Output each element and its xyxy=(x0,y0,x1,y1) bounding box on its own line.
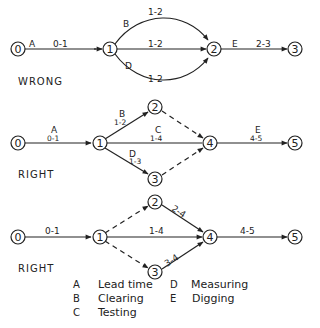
caption-right: RIGHT xyxy=(18,169,54,180)
svg-text:1: 1 xyxy=(97,137,104,150)
edge-label: 0-1 xyxy=(47,134,59,143)
svg-text:0: 0 xyxy=(15,137,22,150)
diagram-wrong: A 0-1 B 1-2 1-2 D 1-2 E 2-3 0 1 2 3 WRON… xyxy=(11,7,302,87)
legend-key: B xyxy=(73,293,80,304)
dummy-1-3 xyxy=(105,241,148,268)
edge-label: 1-2 xyxy=(114,118,126,127)
edge-label: 2-4 xyxy=(170,203,188,220)
node-1: 1 xyxy=(103,42,117,56)
svg-text:2: 2 xyxy=(152,101,159,114)
node-1: 1 xyxy=(93,230,107,244)
svg-text:5: 5 xyxy=(292,231,299,244)
node-0: 0 xyxy=(11,42,25,56)
node-3: 3 xyxy=(148,265,162,279)
dummy-3-4 xyxy=(162,148,203,175)
edge-label: 1-4 xyxy=(150,134,162,143)
svg-text:4: 4 xyxy=(207,137,214,150)
legend-value: Measuring xyxy=(191,278,248,291)
svg-text:3: 3 xyxy=(292,43,299,56)
node-5: 5 xyxy=(288,230,302,244)
svg-text:3: 3 xyxy=(152,173,159,186)
legend-value: Lead time xyxy=(98,278,153,291)
activity-label: E xyxy=(232,39,238,49)
node-2: 2 xyxy=(207,42,221,56)
edge-label: 4-5 xyxy=(240,226,255,236)
node-2: 2 xyxy=(148,100,162,114)
caption-wrong: WRONG xyxy=(18,76,63,87)
edge-label: 2-3 xyxy=(256,39,271,49)
node-5: 5 xyxy=(288,136,302,150)
legend-key: E xyxy=(170,293,176,304)
diagram-right-1: A 0-1 B 1-2 C 1-4 D 1-3 E 4-5 0 1 2 3 4 … xyxy=(11,100,302,186)
edge-1-2 xyxy=(105,112,148,139)
svg-text:4: 4 xyxy=(207,231,214,244)
svg-text:2: 2 xyxy=(152,196,159,209)
edge-label: 1-3 xyxy=(129,157,141,166)
node-0: 0 xyxy=(11,230,25,244)
svg-text:0: 0 xyxy=(15,43,22,56)
svg-text:1: 1 xyxy=(97,231,104,244)
edge-label: 0-1 xyxy=(45,226,60,236)
node-1: 1 xyxy=(93,136,107,150)
edge-label: 4-5 xyxy=(250,134,262,143)
node-2: 2 xyxy=(148,195,162,209)
svg-text:5: 5 xyxy=(292,137,299,150)
legend-value: Digging xyxy=(192,292,235,305)
legend: A Lead time B Clearing C Testing D Measu… xyxy=(73,278,248,319)
edge-1-3 xyxy=(105,148,148,174)
node-3: 3 xyxy=(148,172,162,186)
edge-label: 1-4 xyxy=(149,226,164,236)
edge-label: 3-4 xyxy=(163,252,181,269)
diagram-right-2: 0-1 1-4 2-4 3-4 4-5 0 1 2 3 4 5 RIGHT xyxy=(11,195,302,279)
legend-value: Clearing xyxy=(98,292,144,305)
edge-label: 1-2 xyxy=(148,7,163,17)
network-diagrams: A 0-1 B 1-2 1-2 D 1-2 E 2-3 0 1 2 3 WRON… xyxy=(0,0,320,328)
legend-key: D xyxy=(170,279,178,290)
activity-label: B xyxy=(123,19,129,29)
activity-label: D xyxy=(125,61,132,71)
svg-text:0: 0 xyxy=(15,231,22,244)
node-4: 4 xyxy=(203,230,217,244)
svg-text:3: 3 xyxy=(152,266,159,279)
legend-key: A xyxy=(73,279,80,290)
edge-label: 1-2 xyxy=(148,39,163,49)
legend-value: Testing xyxy=(97,306,137,319)
svg-text:2: 2 xyxy=(211,43,218,56)
dummy-2-4 xyxy=(162,111,203,138)
dummy-1-2 xyxy=(105,206,148,233)
node-4: 4 xyxy=(203,136,217,150)
edge-label: 0-1 xyxy=(53,39,68,49)
caption-right: RIGHT xyxy=(18,263,54,274)
node-3: 3 xyxy=(288,42,302,56)
node-0: 0 xyxy=(11,136,25,150)
svg-text:1: 1 xyxy=(107,43,114,56)
legend-key: C xyxy=(73,307,80,318)
edge-label: 1-2 xyxy=(148,74,163,84)
activity-label: A xyxy=(29,39,36,49)
